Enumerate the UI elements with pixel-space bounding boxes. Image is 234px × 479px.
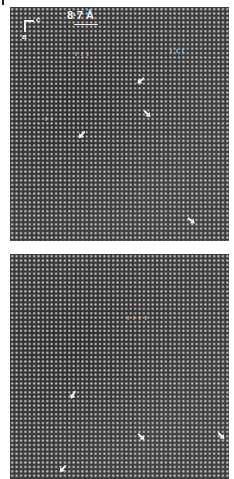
defect-arrow-icon [138, 77, 145, 83]
tick-marks: ı ı ı [75, 50, 90, 57]
tick-marks: ı ı ı [170, 47, 185, 54]
hrtem-image-top: c a 8·7 Å ı ı ı ı ı ı ı ı [10, 7, 229, 241]
hrtem-image-bottom: ı ı ı ı [10, 254, 229, 479]
scale-label: 8·7 Å [67, 9, 94, 21]
defect-arrow-icon [79, 131, 85, 138]
c-axis-label: c [36, 15, 40, 24]
defect-arrow-icon [187, 217, 194, 223]
tick-marks: ı ı ı ı [127, 314, 148, 321]
defect-arrow-icon [143, 110, 149, 116]
defect-arrow-icon [71, 390, 76, 397]
defect-arrow-icon [217, 432, 223, 438]
a-axis-label: a [22, 32, 26, 41]
defect-arrow-icon [137, 433, 143, 439]
c-axis-arrow [24, 20, 34, 22]
defect-arrow-icon [60, 465, 66, 472]
scale-bar [74, 24, 98, 25]
a-axis-arrow [24, 20, 26, 32]
tick-marks: ı ı [45, 115, 54, 122]
panel-letter-mark [2, 0, 4, 5]
